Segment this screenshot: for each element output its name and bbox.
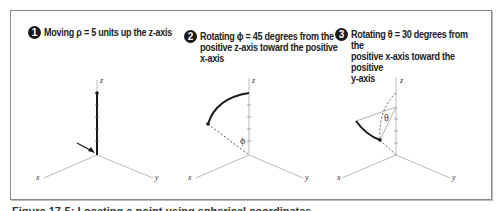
radius-dashed — [380, 140, 396, 155]
point-marker — [95, 91, 99, 95]
x-axis-label: x — [336, 173, 341, 182]
theta-arc — [356, 121, 380, 140]
point-marker — [378, 138, 382, 142]
z-axis-label: z — [99, 76, 104, 85]
figure-caption: Figure 17-5: Locating a point using sphe… — [12, 205, 312, 211]
z-axis-label: z — [399, 76, 404, 85]
diagram-3: θ z x y — [336, 76, 456, 182]
z-axis-label: z — [251, 76, 256, 85]
x-axis-label: x — [187, 173, 192, 182]
y-axis-label: y — [304, 173, 309, 182]
theta-label: θ — [384, 112, 389, 123]
diagram-2: ϕ z x y — [187, 76, 309, 182]
y-axis-label: y — [451, 173, 456, 182]
x-axis-label: x — [35, 173, 40, 182]
diagram-1: z x y — [35, 76, 159, 182]
phi-label: ϕ — [240, 135, 245, 146]
arrow-icon — [77, 143, 95, 153]
phi-arc — [208, 93, 249, 124]
y-axis-label: y — [154, 173, 159, 182]
diagrams-canvas: z x y ϕ z x y — [0, 0, 502, 211]
